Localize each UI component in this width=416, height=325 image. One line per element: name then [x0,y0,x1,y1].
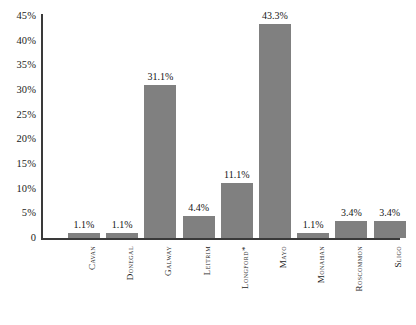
x-tick-label: Monahan [317,246,326,325]
y-tick-label: 5% [0,208,36,219]
x-tick-label: Roscommon [355,246,364,325]
bar-group: 3.4% [374,16,406,238]
bar-series: 1.1%1.1%31.1%4.4%11.1%43.3%1.1%3.4%3.4% [41,16,400,238]
x-axis-line [41,238,400,240]
bar-group: 4.4% [183,16,215,238]
y-tick-label: 45% [0,11,36,22]
bar [144,85,176,238]
bar [297,233,329,238]
bar-group: 1.1% [297,16,329,238]
y-tick-label: 10% [0,183,36,194]
y-tick-label: 35% [0,60,36,71]
bar-chart: 05%10%15%20%25%30%35%40%45% 1.1%1.1%31.1… [0,0,416,325]
bar [221,183,253,238]
bar-group: 1.1% [106,16,138,238]
bar-group: 3.4% [335,16,367,238]
bar [259,24,291,238]
bar [374,221,406,238]
y-tick-label: 40% [0,35,36,46]
y-tick-label: 15% [0,159,36,170]
bar [106,233,138,238]
x-tick-label: Leitrim [203,246,212,325]
bar-group: 43.3% [259,16,291,238]
x-tick-label: Donegal [126,246,135,325]
x-tick-label: Longford* [241,246,250,325]
y-tick-label: 20% [0,134,36,145]
x-tick-label: Cavan [88,246,97,325]
y-tick-label: 0 [0,233,36,244]
y-tick-label: 25% [0,109,36,120]
bar-value-label: 3.4% [358,208,416,218]
bar [335,221,367,238]
bar [183,216,215,238]
bar-group: 11.1% [221,16,253,238]
x-tick-label: Galway [164,246,173,325]
y-tick-label: 30% [0,85,36,96]
x-tick-label: Sligo [394,246,403,325]
x-tick-label: Mayo [279,246,288,325]
bar [68,233,100,238]
bar-group: 1.1% [68,16,100,238]
